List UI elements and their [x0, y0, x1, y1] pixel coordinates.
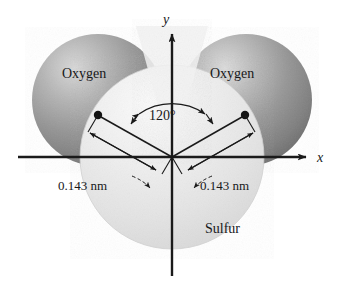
axis-x-label: x	[316, 150, 324, 165]
axis-y-label: y	[161, 12, 170, 27]
molecule-diagram: x y	[0, 0, 342, 286]
label-bond-angle: 120°	[149, 108, 176, 123]
label-bond-length-left: 0.143 nm	[58, 178, 107, 193]
figure-canvas: x y	[0, 0, 342, 286]
label-sulfur: Sulfur	[205, 221, 240, 236]
label-oxygen-right: Oxygen	[210, 66, 254, 81]
label-bond-length-right: 0.143 nm	[200, 178, 249, 193]
label-oxygen-left: Oxygen	[62, 66, 106, 81]
